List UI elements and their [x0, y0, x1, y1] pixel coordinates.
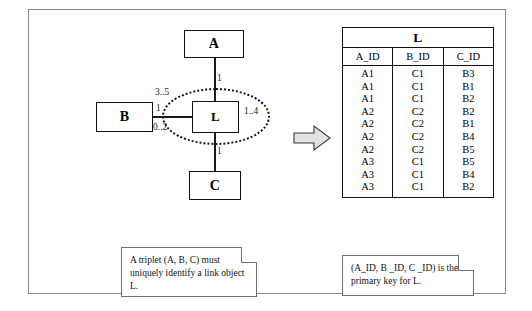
- relation-table-l: L A_ID B_ID C_ID A1 C1 B3 A1: [342, 27, 494, 198]
- multiplicity-c-end: 1: [217, 146, 222, 156]
- cell-b-id: C1: [393, 93, 443, 106]
- class-box-l[interactable]: L: [192, 101, 239, 133]
- note-fold-corner-icon: [241, 247, 257, 263]
- right-arrow-icon: [292, 123, 332, 153]
- cell-b-id: C1: [393, 81, 443, 94]
- cell-c-id: B2: [443, 181, 493, 197]
- cell-c-id: B4: [443, 131, 493, 144]
- table-row[interactable]: A1 C1 B1: [343, 81, 494, 94]
- cell-b-id: C1: [393, 156, 443, 169]
- column-header-b-id: B_ID: [393, 48, 443, 66]
- class-label-c: C: [210, 178, 220, 194]
- cell-c-id: B3: [443, 66, 493, 81]
- cell-a-id: A2: [343, 118, 393, 131]
- multiplicity-l-lower-left: 0..2: [153, 122, 167, 132]
- note-primary-key: (A_ID, B _ID, C _ID) is the primary key …: [342, 255, 474, 296]
- class-label-b: B: [120, 109, 130, 125]
- multiplicity-l-upper-left: 3..5: [155, 87, 169, 97]
- cell-b-id: C2: [393, 131, 443, 144]
- cell-c-id: B1: [443, 118, 493, 131]
- cell-a-id: A2: [343, 144, 393, 157]
- cell-b-id: C2: [393, 106, 443, 119]
- multiplicity-l-right: 1..4: [244, 106, 258, 116]
- figure-canvas: A B C L 1 1 1 3..5 1..4 0..2: [0, 0, 532, 311]
- table-row[interactable]: A3 C1 B5: [343, 156, 494, 169]
- relation-table-container: L A_ID B_ID C_ID A1 C1 B3 A1: [342, 27, 494, 198]
- cell-b-id: C2: [393, 118, 443, 131]
- cell-a-id: A2: [343, 106, 393, 119]
- table-row[interactable]: A2 C2 B4: [343, 131, 494, 144]
- cell-b-id: C1: [393, 169, 443, 182]
- cell-c-id: B5: [443, 156, 493, 169]
- multiplicity-a-end: 1: [217, 73, 222, 83]
- column-header-a-id: A_ID: [343, 48, 393, 66]
- column-header-c-id: C_ID: [443, 48, 493, 66]
- cell-c-id: B4: [443, 169, 493, 182]
- table-title: L: [343, 28, 494, 48]
- class-box-c[interactable]: C: [189, 171, 241, 200]
- class-label-a: A: [209, 36, 219, 52]
- cell-a-id: A2: [343, 131, 393, 144]
- cell-c-id: B1: [443, 81, 493, 94]
- cell-a-id: A3: [343, 169, 393, 182]
- cell-b-id: C1: [393, 181, 443, 197]
- table-header-row: A_ID B_ID C_ID: [343, 48, 494, 66]
- cell-a-id: A3: [343, 181, 393, 197]
- figure-border: A B C L 1 1 1 3..5 1..4 0..2: [28, 9, 506, 294]
- table-row[interactable]: A2 C2 B1: [343, 118, 494, 131]
- table-row[interactable]: A2 C2 B5: [343, 144, 494, 157]
- cell-a-id: A1: [343, 66, 393, 81]
- cell-c-id: B2: [443, 93, 493, 106]
- note-fold-corner-icon: [458, 255, 474, 271]
- table-title-row: L: [343, 28, 494, 48]
- cell-a-id: A1: [343, 93, 393, 106]
- class-label-l: L: [211, 109, 220, 125]
- class-box-a[interactable]: A: [184, 30, 244, 58]
- cell-c-id: B2: [443, 106, 493, 119]
- note-left-text: A triplet (A, B, C) must uniquely identi…: [130, 254, 248, 294]
- table-row[interactable]: A1 C1 B3: [343, 66, 494, 81]
- note-right-text: (A_ID, B _ID, C _ID) is the primary key …: [351, 262, 465, 288]
- multiplicity-b-end: 1: [156, 103, 161, 113]
- class-box-b[interactable]: B: [96, 102, 153, 132]
- cell-a-id: A1: [343, 81, 393, 94]
- table-row[interactable]: A3 C1 B4: [343, 169, 494, 182]
- table-row[interactable]: A3 C1 B2: [343, 181, 494, 197]
- cell-c-id: B5: [443, 144, 493, 157]
- cell-b-id: C2: [393, 144, 443, 157]
- cell-a-id: A3: [343, 156, 393, 169]
- note-constraint-triplet: A triplet (A, B, C) must uniquely identi…: [121, 247, 257, 297]
- cell-b-id: C1: [393, 66, 443, 81]
- table-row[interactable]: A2 C2 B2: [343, 106, 494, 119]
- table-row[interactable]: A1 C1 B2: [343, 93, 494, 106]
- table-body: A1 C1 B3 A1 C1 B1 A1 C1 B2: [343, 66, 494, 198]
